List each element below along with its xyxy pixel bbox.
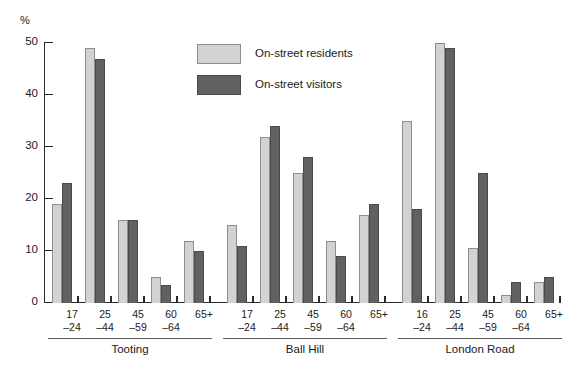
x-axis-tick	[493, 296, 495, 303]
category-label-line1: 17	[66, 308, 78, 320]
group-rule	[223, 338, 387, 339]
category-label-line1: 17	[241, 308, 253, 320]
x-axis-tick	[559, 296, 561, 303]
group-label: Ball Hill	[223, 342, 387, 356]
bar	[478, 173, 488, 303]
category-label-line1: 60	[165, 308, 177, 320]
bar	[293, 173, 303, 303]
bar	[534, 282, 544, 303]
legend-label-visitors: On-street visitors	[255, 78, 342, 90]
x-axis-tick	[384, 296, 386, 303]
bar	[151, 277, 161, 303]
category-label-line1: 45	[482, 308, 494, 320]
legend-swatch-residents-icon	[197, 44, 241, 64]
x-axis-tick	[460, 296, 462, 303]
x-axis-tick	[252, 296, 254, 303]
bar	[435, 43, 445, 303]
category-label-line1: 60	[515, 308, 527, 320]
category-label-line1: 25	[274, 308, 286, 320]
y-axis-tick-label: 50	[14, 36, 38, 48]
x-axis-tick	[351, 296, 353, 303]
y-axis-tick-label: 40	[14, 88, 38, 100]
x-axis-tick	[209, 296, 211, 303]
x-axis-tick	[110, 296, 112, 303]
category-label: 65+	[181, 308, 227, 321]
category-label-line1: 25	[449, 308, 461, 320]
bar	[161, 285, 171, 303]
category-label-line1: 65+	[370, 308, 388, 320]
bar	[85, 48, 95, 303]
group-rule	[48, 338, 212, 339]
bar	[468, 248, 478, 303]
category-label-line1: 45	[307, 308, 319, 320]
bar	[62, 183, 72, 303]
bar	[303, 157, 313, 303]
x-axis-tick	[318, 296, 320, 303]
y-axis-tick-label: 20	[14, 192, 38, 204]
group-label: Tooting	[48, 342, 212, 356]
category-label-line1: 65+	[545, 308, 563, 320]
bar	[237, 246, 247, 303]
category-label-line2: –64	[148, 321, 194, 334]
y-axis-tick-label: 10	[14, 244, 38, 256]
category-label-line2: –64	[323, 321, 369, 334]
bar	[369, 204, 379, 303]
bar	[260, 137, 270, 303]
category-label: 65+	[356, 308, 402, 321]
bar	[118, 220, 128, 303]
group-rule	[398, 338, 562, 339]
category-label: 65+	[531, 308, 572, 321]
x-axis-tick	[143, 296, 145, 303]
x-axis-tick	[176, 296, 178, 303]
bar	[412, 209, 422, 303]
bar	[326, 241, 336, 303]
bar	[128, 220, 138, 303]
bar	[227, 225, 237, 303]
y-axis-tick-label: 30	[14, 140, 38, 152]
category-label-line1: 65+	[195, 308, 213, 320]
group-label: London Road	[398, 342, 562, 356]
x-axis-tick	[526, 296, 528, 303]
bar	[501, 295, 511, 303]
category-label-line2: –64	[498, 321, 544, 334]
bar	[95, 59, 105, 303]
grouped-bar-chart: % 01020304050 17–2425–4445–5960–6465+17–…	[0, 0, 572, 367]
x-axis-tick	[77, 296, 79, 303]
bar	[270, 126, 280, 303]
bar	[445, 48, 455, 303]
bar	[184, 241, 194, 303]
bar	[336, 256, 346, 303]
category-label-line1: 25	[99, 308, 111, 320]
plot-area	[45, 20, 565, 303]
y-axis-unit-label: %	[20, 14, 30, 26]
legend-label-residents: On-street residents	[255, 47, 353, 59]
bar	[402, 121, 412, 303]
bar	[52, 204, 62, 303]
bar	[194, 251, 204, 303]
x-axis-tick	[285, 296, 287, 303]
legend-swatch-visitors-icon	[197, 75, 241, 95]
bar	[544, 277, 554, 303]
category-label-line1: 16	[416, 308, 428, 320]
y-axis-tick-label: 0	[14, 296, 38, 308]
category-label-line1: 60	[340, 308, 352, 320]
bar	[511, 282, 521, 303]
bar	[359, 215, 369, 303]
category-label-line1: 45	[132, 308, 144, 320]
x-axis-tick	[427, 296, 429, 303]
